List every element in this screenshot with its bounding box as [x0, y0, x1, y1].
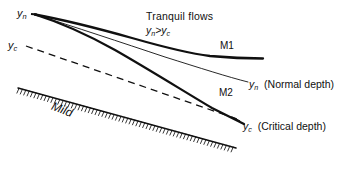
channel-bed-hatching	[17, 88, 233, 152]
label-yn-greater-yc: yn>yc	[146, 25, 170, 36]
label-yc-left: yc	[8, 40, 17, 51]
label-critical-depth: yc (Critical depth)	[243, 121, 326, 132]
label-m2-profile: M2	[219, 88, 233, 98]
label-yn-left: yn	[17, 8, 27, 19]
label-normal-depth: yn (Normal depth)	[249, 79, 334, 90]
channel-bed-line	[18, 88, 236, 148]
flow-profile-figure: yn yc Tranquil flows yn>yc M1 M2 yn (Nor…	[0, 0, 351, 171]
normal-depth-line	[35, 15, 248, 83]
label-m1-profile: M1	[220, 41, 234, 51]
label-tranquil-flows: Tranquil flows	[146, 11, 213, 22]
yn-left-tick	[31, 14, 37, 15]
